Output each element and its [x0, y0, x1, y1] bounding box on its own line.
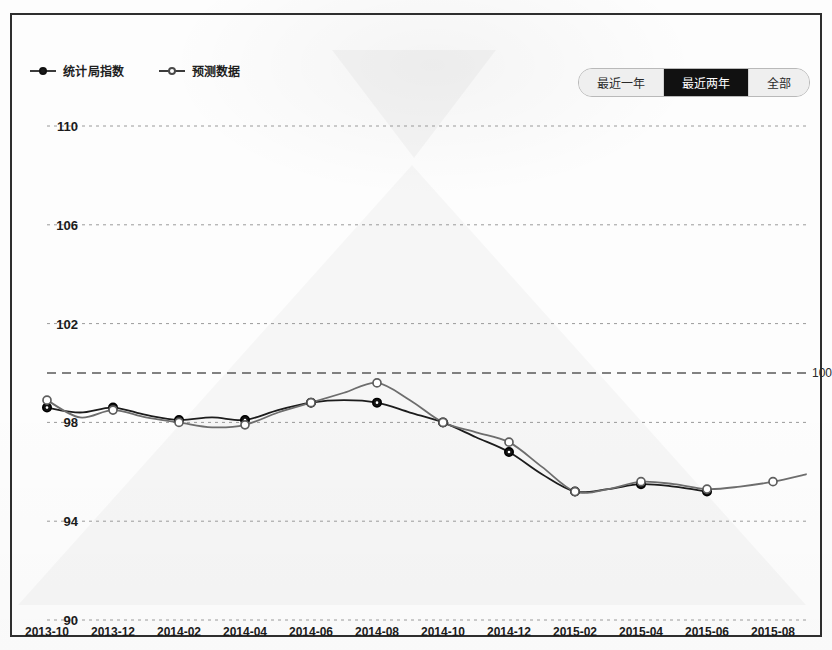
x-tick-label: 2014-10 [421, 625, 465, 639]
x-tick-label: 2014-06 [289, 625, 333, 639]
legend-item-forecast-data[interactable]: 预测数据 [159, 62, 241, 79]
x-tick-label: 2013-10 [25, 625, 69, 639]
legend-label-forecast-data: 预测数据 [192, 62, 241, 79]
y-tick-label: 106 [32, 217, 78, 232]
y-tick-label: 94 [32, 514, 78, 529]
x-tick-label: 2014-12 [487, 625, 531, 639]
y-tick-label: 110 [32, 119, 78, 134]
y-tick-label: 102 [32, 316, 78, 331]
y-tick-label: 98 [32, 415, 78, 430]
x-tick-label: 2014-02 [157, 625, 201, 639]
range-button-last-one-year[interactable]: 最近一年 [579, 69, 664, 96]
y-axis-labels: 909498102106110 [0, 0, 78, 650]
x-tick-label: 2015-08 [751, 625, 795, 639]
range-selector[interactable]: 最近一年 最近两年 全部 [578, 68, 810, 97]
hollow-circle-marker-icon [159, 65, 185, 77]
x-tick-label: 2015-04 [619, 625, 663, 639]
chart-frame-border [10, 13, 822, 637]
x-axis-labels: 2013-102013-122014-022014-042014-062014-… [0, 625, 832, 647]
range-button-last-two-years[interactable]: 最近两年 [664, 69, 749, 96]
x-tick-label: 2014-08 [355, 625, 399, 639]
x-tick-label: 2015-02 [553, 625, 597, 639]
chart-page: 统计局指数 预测数据 最近一年 最近两年 全部 909498102106110 … [0, 0, 832, 650]
reference-line-label: 100 [812, 366, 832, 380]
x-tick-label: 2015-06 [685, 625, 729, 639]
range-button-all[interactable]: 全部 [749, 69, 809, 96]
x-tick-label: 2013-12 [91, 625, 135, 639]
x-tick-label: 2014-04 [223, 625, 267, 639]
